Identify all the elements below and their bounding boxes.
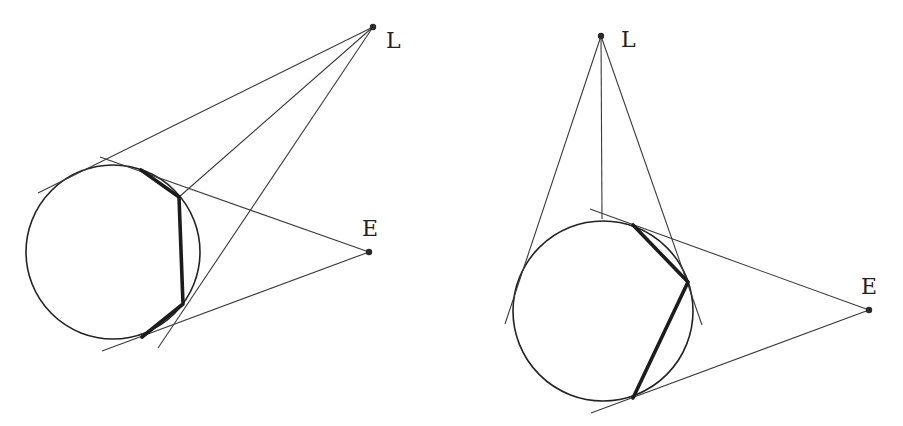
projection-lines [505, 36, 869, 413]
figure-right: L E [505, 27, 877, 413]
geometry-figure: L E L E [0, 0, 903, 426]
eye-point [366, 249, 372, 255]
ray-line [601, 36, 602, 219]
projection-lines [38, 27, 373, 351]
sphere-outline [513, 221, 693, 401]
eye-label: E [362, 216, 378, 241]
light-point [370, 24, 376, 30]
light-point [598, 33, 604, 39]
ray-line [38, 27, 373, 193]
terminator-polyline [633, 225, 688, 398]
diagram-canvas: L E L E [0, 0, 903, 426]
eye-point [866, 307, 872, 313]
eye-label: E [861, 274, 877, 299]
ray-line [505, 36, 601, 324]
light-label: L [621, 27, 636, 52]
light-label: L [386, 28, 401, 53]
figure-left: L E [26, 24, 401, 351]
